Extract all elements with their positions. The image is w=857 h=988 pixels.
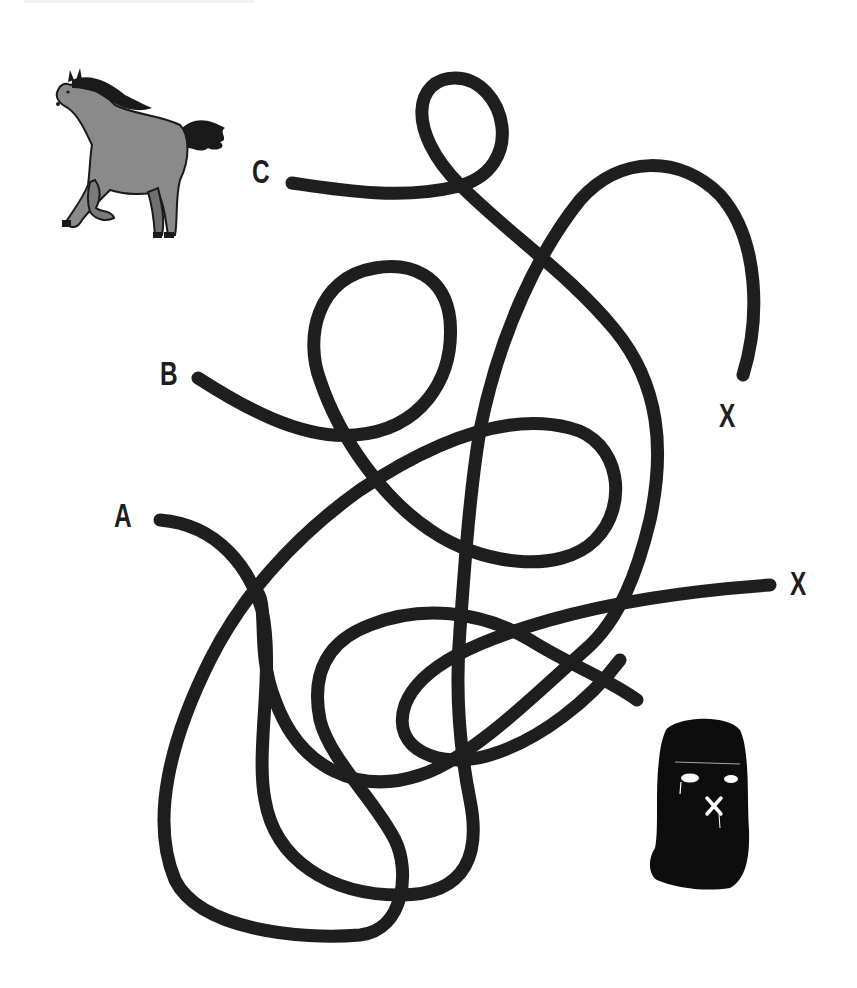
- start-label-c: C: [252, 154, 270, 188]
- end-label-x-upper: X: [719, 398, 735, 432]
- start-label-a: A: [114, 498, 132, 532]
- ski-mask-thief-icon: [645, 710, 757, 890]
- horse-icon: [40, 60, 235, 250]
- maze-puzzle-page: C B A X X: [0, 0, 857, 988]
- maze-path-b[interactable]: [164, 267, 637, 937]
- end-label-x-lower: X: [790, 566, 806, 600]
- start-label-b: B: [160, 356, 178, 390]
